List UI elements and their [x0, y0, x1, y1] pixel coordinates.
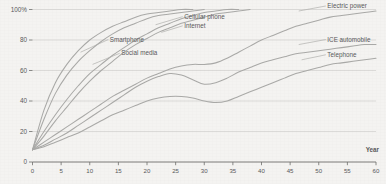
x-tick-label: 10 [86, 167, 93, 174]
series-label-electric-power: Electric power [327, 2, 367, 10]
x-tick-label: 0 [31, 167, 35, 174]
x-tick-label: 45 [287, 167, 294, 174]
x-tick-label: 55 [344, 167, 351, 174]
series-label-cellular-phone: Cellular phone [184, 13, 225, 21]
x-tick-label: 35 [229, 167, 236, 174]
series-label-ice-automobile: ICE automobile [327, 36, 371, 43]
series-line-internet [33, 10, 251, 150]
x-axis-ticks [33, 162, 377, 165]
series-lines [33, 9, 377, 149]
y-tick-label: 60 [20, 67, 28, 74]
x-tick-label: 15 [115, 167, 122, 174]
y-axis-ticks [29, 10, 33, 163]
x-tick-label: 25 [172, 167, 179, 174]
chart-canvas: 020406080100% 051015202530354045505560 S… [0, 0, 386, 184]
series-label-social-media: Social media [121, 49, 158, 56]
adoption-curve-chart: 020406080100% 051015202530354045505560 S… [0, 0, 386, 184]
y-axis-tick-labels: 020406080100% [11, 6, 28, 166]
y-tick-label: 40 [20, 97, 28, 104]
y-tick-label: 100% [11, 6, 28, 13]
y-tick-label: 80 [20, 36, 28, 43]
x-tick-label: 5 [59, 167, 63, 174]
series-label-internet: Internet [184, 22, 206, 29]
x-tick-label: 30 [201, 167, 208, 174]
series-line-ice-automobile [33, 44, 377, 149]
x-axis-tick-labels: 051015202530354045505560 [31, 167, 380, 174]
series-line-electric-power [33, 11, 377, 150]
series-line-telephone [33, 58, 377, 150]
series-label-smartphone: Smartphone [110, 36, 145, 44]
x-tick-label: 40 [258, 167, 265, 174]
x-axis-title: Year [366, 146, 380, 153]
y-tick-label: 20 [20, 128, 28, 135]
x-tick-label: 60 [373, 167, 380, 174]
series-label-telephone: Telephone [327, 51, 357, 59]
x-tick-label: 50 [315, 167, 322, 174]
y-tick-label: 0 [23, 158, 27, 165]
series-line-social-media [33, 10, 205, 150]
x-tick-label: 20 [144, 167, 151, 174]
